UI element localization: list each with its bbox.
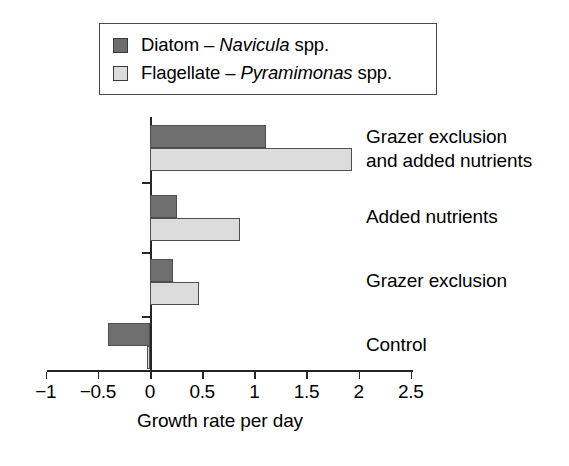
x-axis-tick-label: 2.5 [381,381,441,403]
category-tick [142,316,150,318]
bar-flagellate [147,346,150,369]
bar-flagellate [150,282,199,305]
bar-diatom [108,323,150,346]
category-tick [142,182,150,184]
bar-diatom [150,125,266,148]
x-axis-tick [254,372,256,379]
category-label: Added nutrients [366,205,498,229]
x-axis-tick [98,372,100,379]
category-tick [142,252,150,254]
bar-flagellate [150,218,240,241]
bar-diatom [150,259,173,282]
x-axis-tick-label: 0.5 [172,381,232,403]
x-axis-tick-label: −0.5 [68,381,128,403]
bar-diatom [150,195,177,218]
x-axis-tick [359,372,361,379]
x-axis-tick-label: 1.5 [276,381,336,403]
category-label: Control [366,333,427,357]
bar-flagellate [150,148,352,171]
x-axis-tick-label: 1 [224,381,284,403]
category-label: Grazer exclusion and added nutrients [366,125,532,173]
x-axis-tick [46,372,48,379]
chart-figure: Diatom – Navicula spp. Flagellate – Pyra… [0,0,569,466]
category-label: Grazer exclusion [366,269,507,293]
x-axis-tick-label: 2 [329,381,389,403]
x-axis-tick [202,372,204,379]
plot-area: −1−0.500.511.522.5 Grazer exclusion and … [0,0,569,466]
x-axis-tick [150,372,152,379]
x-axis-tick [411,372,413,379]
x-axis-tick-label: 0 [120,381,180,403]
x-axis-tick-label: −1 [16,381,76,403]
x-axis-title: Growth rate per day [0,410,440,432]
x-axis-tick [306,372,308,379]
